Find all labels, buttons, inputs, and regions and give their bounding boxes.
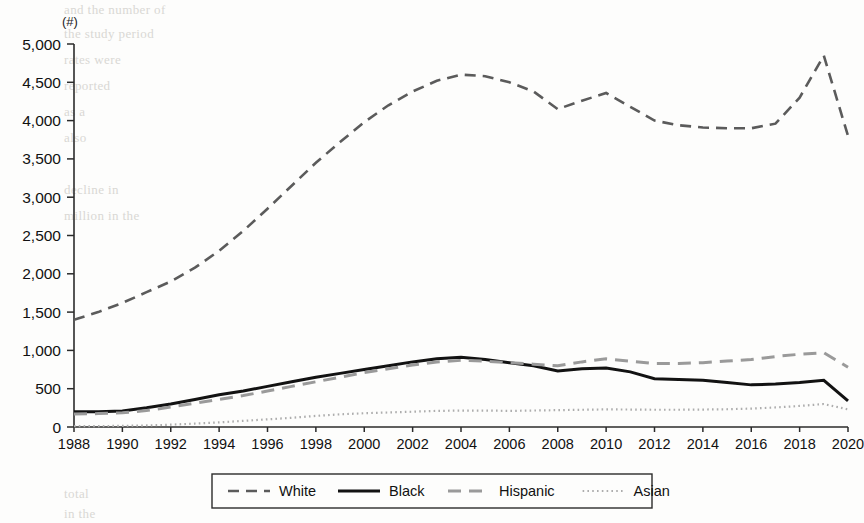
legend-label-white: White xyxy=(279,483,316,499)
series-container xyxy=(74,55,848,426)
x-tick-label: 2008 xyxy=(542,436,574,452)
x-tick-label: 1988 xyxy=(58,436,90,452)
y-tick-label: 1,000 xyxy=(22,342,61,359)
y-tick-label: 4,000 xyxy=(22,112,61,129)
x-tick-label: 1994 xyxy=(203,436,235,452)
y-tick-label: 500 xyxy=(35,380,61,397)
line-chart: 5,0004,5004,0003,5003,0002,5002,0001,500… xyxy=(0,0,864,523)
series-line-asian xyxy=(74,404,848,426)
x-tick-label: 2004 xyxy=(445,436,477,452)
x-tick-label: 2010 xyxy=(590,436,622,452)
x-tick-label: 2020 xyxy=(832,436,864,452)
x-tick-label: 2014 xyxy=(687,436,719,452)
chart-page: and the number of the study period rates… xyxy=(0,0,864,523)
y-tick-label: 2,000 xyxy=(22,265,61,282)
x-tick-label: 2012 xyxy=(638,436,670,452)
x-tick-label: 1996 xyxy=(251,436,283,452)
x-tick-label: 2006 xyxy=(493,436,525,452)
x-axis-ticks: 1988199019921994199619982000200220042006… xyxy=(58,427,864,452)
y-tick-label: 3,000 xyxy=(22,189,61,206)
y-axis-unit-label: (#) xyxy=(62,14,78,29)
x-tick-label: 1992 xyxy=(155,436,187,452)
chart-legend: WhiteBlackHispanicAsian xyxy=(212,474,670,508)
legend-label-asian: Asian xyxy=(634,483,670,499)
x-tick-label: 1998 xyxy=(300,436,332,452)
x-tick-label: 2016 xyxy=(735,436,767,452)
series-line-white xyxy=(74,55,848,319)
y-tick-label: 1,500 xyxy=(22,304,61,321)
legend-border xyxy=(212,474,652,508)
legend-label-black: Black xyxy=(389,483,425,499)
x-tick-label: 2018 xyxy=(783,436,815,452)
legend-label-hispanic: Hispanic xyxy=(499,483,555,499)
x-tick-label: 2000 xyxy=(348,436,380,452)
y-tick-label: 2,500 xyxy=(22,227,61,244)
y-tick-label: 0 xyxy=(52,419,61,436)
y-tick-label: 5,000 xyxy=(22,36,61,53)
x-tick-label: 1990 xyxy=(106,436,138,452)
x-tick-label: 2002 xyxy=(396,436,428,452)
y-tick-label: 4,500 xyxy=(22,74,61,91)
y-axis-ticks: 5,0004,5004,0003,5003,0002,5002,0001,500… xyxy=(22,36,74,436)
y-tick-label: 3,500 xyxy=(22,150,61,167)
